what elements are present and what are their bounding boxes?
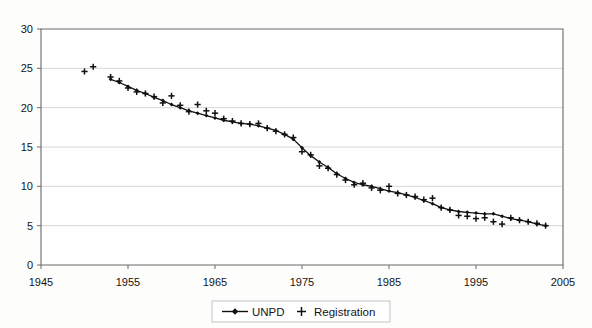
x-tick-label-1995: 1995 — [464, 276, 488, 288]
x-tick-label-1965: 1965 — [203, 276, 227, 288]
y-tick-label-5: 5 — [27, 220, 33, 232]
y-tick-label-20: 20 — [21, 102, 33, 114]
legend-label-registration: Registration — [314, 306, 375, 318]
y-tick-label-30: 30 — [21, 23, 33, 35]
y-tick-label-10: 10 — [21, 180, 33, 192]
x-tick-label-1975: 1975 — [290, 276, 314, 288]
x-tick-label-2005: 2005 — [551, 276, 575, 288]
y-tick-label-15: 15 — [21, 141, 33, 153]
x-tick-label-1955: 1955 — [116, 276, 140, 288]
x-tick-label-1985: 1985 — [377, 276, 401, 288]
chart-container: 051015202530 194519551965197519851995200… — [0, 0, 592, 328]
y-tick-label-0: 0 — [27, 259, 33, 271]
chart-legend: UNPD Registration — [212, 301, 390, 322]
birth-rate-chart: 051015202530 194519551965197519851995200… — [0, 0, 592, 328]
legend-label-unpd: UNPD — [252, 306, 285, 318]
y-tick-label-25: 25 — [21, 62, 33, 74]
x-tick-label-1945: 1945 — [29, 276, 53, 288]
